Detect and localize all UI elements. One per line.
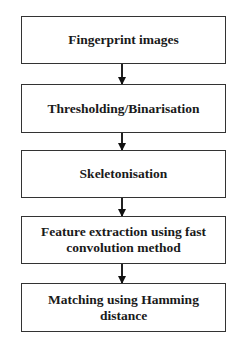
arrow-down-icon xyxy=(121,64,123,84)
step-label: Feature extraction using fast convolutio… xyxy=(22,224,225,256)
arrow-down-icon xyxy=(121,198,123,216)
step-label: Thresholding/Binarisation xyxy=(41,101,205,117)
step-label: Fingerprint images xyxy=(62,32,185,48)
arrow-down-icon xyxy=(121,133,123,150)
step-label: Skeletonisation xyxy=(74,166,174,182)
arrow-down-icon xyxy=(121,264,123,283)
step-fingerprint-images: Fingerprint images xyxy=(21,16,226,64)
step-label: Matching using Hamming distance xyxy=(22,292,225,324)
step-matching-hamming: Matching using Hamming distance xyxy=(21,283,226,332)
step-feature-extraction: Feature extraction using fast convolutio… xyxy=(21,216,226,264)
step-thresholding-binarisation: Thresholding/Binarisation xyxy=(21,84,226,133)
step-skeletonisation: Skeletonisation xyxy=(21,150,226,198)
